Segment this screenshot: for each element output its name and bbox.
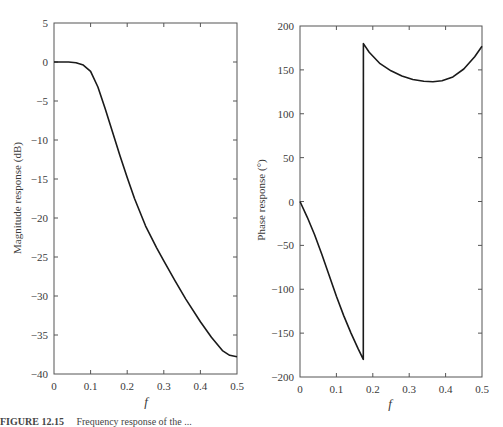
y-tick-label: 0 <box>43 56 49 68</box>
magnitude-plot-frame <box>54 23 237 374</box>
figure-caption-text: Frequency response of the ... <box>76 416 191 427</box>
y-tick-label: −100 <box>271 283 294 295</box>
y-tick-label: −20 <box>31 212 49 224</box>
y-tick-label: 5 <box>43 17 49 29</box>
magnitude-axis-ticks <box>54 23 237 374</box>
magnitude-plot: 00.10.20.30.40.550−5−10−15−20−25−30−35−4… <box>11 17 244 409</box>
x-tick-label: 0.3 <box>402 383 416 395</box>
y-tick-label: −5 <box>36 95 48 107</box>
phase-x-axis-label: f <box>388 396 394 411</box>
y-tick-label: −35 <box>31 329 49 341</box>
y-tick-label: −10 <box>31 134 49 146</box>
y-tick-label: −200 <box>271 371 294 383</box>
y-tick-label: 50 <box>283 152 295 164</box>
y-tick-label: −40 <box>31 368 49 380</box>
x-tick-label: 0.4 <box>194 380 208 392</box>
y-tick-label: −15 <box>31 173 49 185</box>
magnitude-x-axis-label: f <box>144 394 150 409</box>
y-tick-label: 200 <box>278 20 295 32</box>
magnitude-curve <box>54 62 237 357</box>
x-tick-label: 0.4 <box>439 383 453 395</box>
y-tick-label: 100 <box>278 108 295 120</box>
x-tick-label: 0.1 <box>84 380 98 392</box>
x-tick-label: 0 <box>51 380 57 392</box>
y-tick-label: 0 <box>289 196 295 208</box>
x-tick-label: 0.5 <box>230 380 244 392</box>
phase-y-axis-label: Phase response (°) <box>255 159 268 241</box>
x-tick-label: 0.2 <box>366 383 380 395</box>
y-tick-label: 150 <box>278 64 295 76</box>
figure-caption: FIGURE 12.15 Frequency response of the .… <box>0 416 192 427</box>
x-tick-label: 0.2 <box>120 380 134 392</box>
x-tick-label: 0.3 <box>157 380 171 392</box>
phase-plot-frame <box>300 26 482 377</box>
figure-canvas: 00.10.20.30.40.550−5−10−15−20−25−30−35−4… <box>0 0 503 427</box>
x-tick-label: 0.1 <box>330 383 344 395</box>
y-tick-label: −150 <box>271 327 294 339</box>
y-tick-label: −25 <box>31 251 49 263</box>
phase-axis-ticks <box>300 26 482 377</box>
figure-caption-label: FIGURE 12.15 <box>0 416 64 427</box>
magnitude-y-axis-label: Magnitude response (dB) <box>11 142 24 254</box>
phase-curve <box>300 44 482 360</box>
x-tick-label: 0.5 <box>475 383 489 395</box>
y-tick-label: −30 <box>31 290 49 302</box>
x-tick-label: 0 <box>297 383 303 395</box>
y-tick-label: −50 <box>277 239 295 251</box>
phase-plot: 00.10.20.30.40.5200150100500−50−100−150−… <box>255 20 489 411</box>
phase-tick-labels: 00.10.20.30.40.5200150100500−50−100−150−… <box>271 20 489 395</box>
